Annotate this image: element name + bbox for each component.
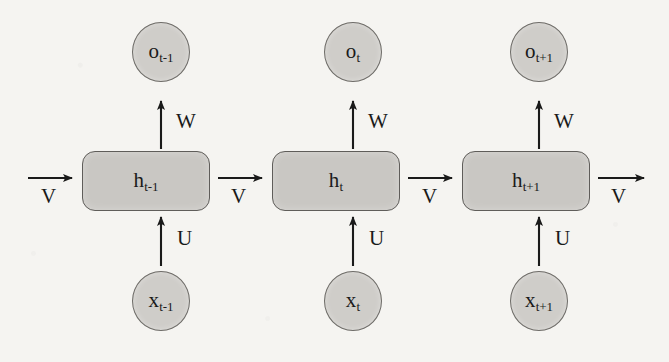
weight-label-w-t-minus-1: W [176, 111, 196, 132]
weight-label-u-t: U [369, 228, 384, 249]
output-node-label-t-minus-1: ot-1 [148, 41, 173, 64]
output-node-label-t-plus-1: ot+1 [525, 41, 553, 64]
output-node-t-plus-1: ot+1 [510, 22, 568, 82]
weight-label-v-out-t-plus-1: V [611, 186, 626, 207]
output-node-label-t: ot [346, 41, 360, 64]
input-node-t-plus-1: xt+1 [510, 271, 568, 331]
input-node-label-t: xt [346, 290, 360, 313]
rnn-unfolded-diagram: ot-1 ht-1 xt-1 V V W U ot ht [0, 0, 669, 362]
weight-label-v-in-t-minus-1: V [41, 186, 56, 207]
weight-label-v-out-t: V [422, 186, 437, 207]
input-node-label-t-plus-1: xt+1 [525, 290, 553, 313]
weight-label-u-t-plus-1: U [555, 228, 570, 249]
output-node-t-minus-1: ot-1 [132, 22, 190, 82]
weight-label-v-out-t-minus-1: V [231, 186, 246, 207]
input-node-label-t-minus-1: xt-1 [148, 290, 173, 313]
weight-label-w-t: W [368, 111, 388, 132]
hidden-node-label-t-minus-1: ht-1 [133, 170, 158, 193]
weight-label-u-t-minus-1: U [177, 228, 192, 249]
weight-label-w-t-plus-1: W [554, 111, 574, 132]
hidden-node-t-minus-1: ht-1 [82, 151, 210, 211]
input-node-t: xt [324, 271, 382, 331]
hidden-node-label-t-plus-1: ht+1 [512, 170, 540, 193]
input-node-t-minus-1: xt-1 [132, 271, 190, 331]
hidden-node-t-plus-1: ht+1 [462, 151, 590, 211]
output-node-t: ot [324, 22, 382, 82]
hidden-node-t: ht [272, 151, 400, 211]
hidden-node-label-t: ht [329, 170, 343, 193]
